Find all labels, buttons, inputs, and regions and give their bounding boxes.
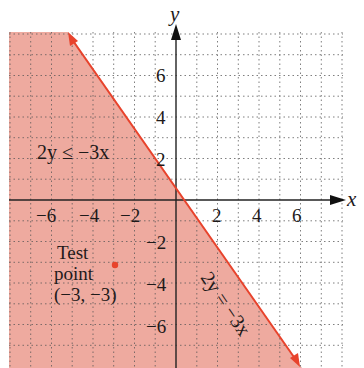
y-axis-label: y bbox=[170, 4, 179, 25]
y-tick-neg2: −2 bbox=[146, 233, 166, 252]
test-point bbox=[112, 262, 118, 268]
x-tick-neg6: −6 bbox=[36, 206, 56, 225]
x-axis-label: x bbox=[347, 189, 356, 210]
y-tick-6: 6 bbox=[156, 66, 166, 85]
x-tick-4: 4 bbox=[252, 206, 262, 225]
inequality-graph bbox=[0, 0, 364, 368]
test-point-label-line3: (−3, −3) bbox=[54, 285, 117, 304]
x-tick-6: 6 bbox=[292, 206, 302, 225]
y-tick-2: 2 bbox=[156, 150, 166, 169]
x-tick-2: 2 bbox=[212, 206, 222, 225]
inequality-label: 2y ≤ −3x bbox=[37, 142, 109, 162]
test-point-label-line2: point bbox=[54, 264, 93, 283]
x-tick-neg2: −2 bbox=[120, 206, 140, 225]
x-axis-arrow-icon bbox=[330, 195, 346, 205]
x-tick-neg4: −4 bbox=[79, 206, 99, 225]
test-point-label-line1: Test bbox=[57, 243, 88, 262]
y-tick-neg6: −6 bbox=[146, 317, 166, 336]
y-axis-arrow-icon bbox=[171, 24, 181, 40]
y-tick-4: 4 bbox=[156, 108, 166, 127]
y-tick-neg4: −4 bbox=[146, 275, 166, 294]
